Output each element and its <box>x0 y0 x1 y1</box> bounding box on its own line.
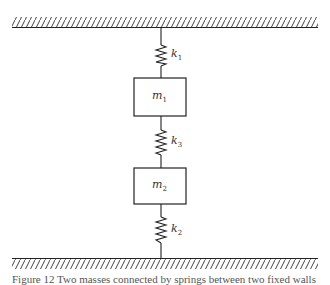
spring-k3 <box>156 116 166 168</box>
label-m2: m2 <box>152 178 167 193</box>
spring-k1 <box>156 27 166 78</box>
label-k1: k1 <box>171 47 182 62</box>
figure-caption: Figure 12 Two masses connected by spring… <box>12 273 316 285</box>
spring-k2 <box>156 204 166 258</box>
label-m1: m1 <box>152 89 167 104</box>
label-k3: k3 <box>171 134 182 149</box>
bottom-wall <box>12 259 318 270</box>
top-wall <box>12 17 318 28</box>
label-k2: k2 <box>171 222 182 237</box>
